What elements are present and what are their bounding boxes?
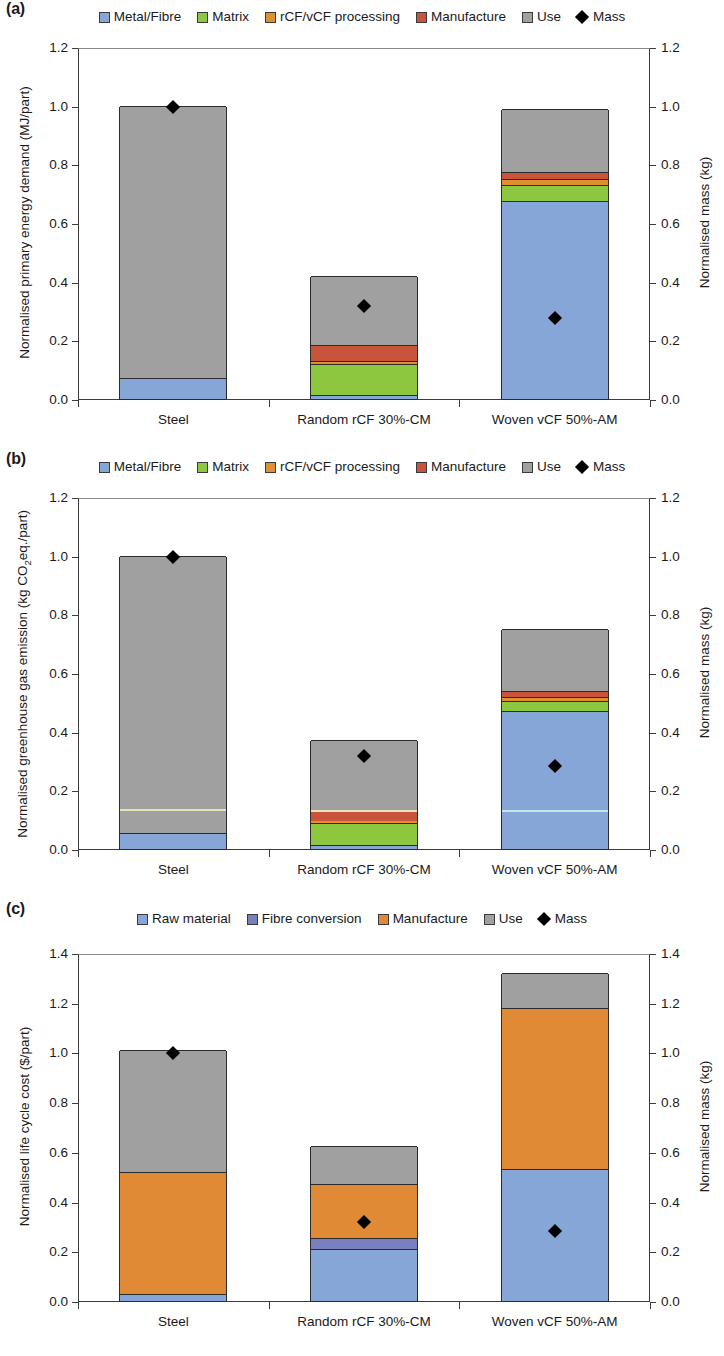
legend-item-matrix[interactable]: Matrix <box>197 460 249 474</box>
y-tick-label-right: 0.0 <box>661 1295 680 1309</box>
legend-item-fibre-conversion[interactable]: Fibre conversion <box>247 912 362 926</box>
legend-item-mass[interactable]: Mass <box>577 460 625 474</box>
y-tick-label-left: 0.6 <box>36 1146 68 1160</box>
y-axis-label-right: Normalised mass (kg) <box>697 953 712 1301</box>
y-tick-mark-right <box>650 1004 656 1005</box>
mass-diamond-icon <box>537 912 551 926</box>
y-tick-label-left: 0.6 <box>36 217 68 231</box>
bar-steel[interactable] <box>119 1051 227 1302</box>
legend-label: Fibre conversion <box>262 912 362 926</box>
bar-steel[interactable] <box>119 107 227 400</box>
legend-label: rCF/vCF processing <box>280 10 400 24</box>
y-tick-mark-right <box>650 1103 656 1104</box>
y-tick-mark-left <box>72 1053 78 1054</box>
bar-segment-metal-fibre <box>120 378 226 399</box>
y-tick-label-left: 0.0 <box>36 393 68 407</box>
legend-label: Matrix <box>212 10 249 24</box>
bar-segment-matrix <box>502 701 608 711</box>
y-tick-label-right: 0.2 <box>661 785 680 799</box>
bar-steel[interactable] <box>119 557 227 850</box>
y-tick-mark-left <box>72 733 78 734</box>
panel-b: (b) Metal/FibreMatrixrCF/vCF processingM… <box>0 450 724 900</box>
legend-label: Manufacture <box>431 10 506 24</box>
bar-segment-raw-material <box>120 1294 226 1301</box>
x-tick-mark <box>650 1302 651 1309</box>
legend-item-metal-fibre[interactable]: Metal/Fibre <box>99 10 182 24</box>
y-tick-mark-left <box>72 283 78 284</box>
legend-label: Mass <box>593 460 625 474</box>
y-tick-label-left: 1.4 <box>36 947 68 961</box>
legend-item-rcf-vcf-processing[interactable]: rCF/vCF processing <box>265 460 400 474</box>
bar-random-rcf-30-cm[interactable] <box>310 277 418 400</box>
legend-label: Manufacture <box>431 460 506 474</box>
bar-woven-vcf-50-am[interactable] <box>501 110 609 400</box>
legend-swatch-icon <box>197 12 208 23</box>
legend-label: rCF/vCF processing <box>280 460 400 474</box>
x-axis-label: Random rCF 30%-CM <box>297 1314 431 1329</box>
y-tick-label-right: 0.8 <box>661 609 680 623</box>
legend-item-mass[interactable]: Mass <box>539 912 587 926</box>
y-axis-label-right: Normalised mass (kg) <box>697 497 712 849</box>
y-tick-label-right: 0.6 <box>661 217 680 231</box>
y-tick-label-left: 0.6 <box>36 667 68 681</box>
y-tick-mark-left <box>72 165 78 166</box>
y-tick-label-left: 0.2 <box>36 785 68 799</box>
y-tick-mark-left <box>72 1153 78 1154</box>
y-tick-mark-right <box>650 341 656 342</box>
legend-item-rcf-vcf-processing[interactable]: rCF/vCF processing <box>265 10 400 24</box>
y-tick-label-left: 1.2 <box>36 41 68 55</box>
bar-segment-manufacture <box>502 1008 608 1170</box>
y-tick-label-left: 0.4 <box>36 276 68 290</box>
y-tick-label-right: 0.4 <box>661 726 680 740</box>
y-tick-mark-right <box>650 224 656 225</box>
bar-segment-manufacture <box>502 172 608 179</box>
bar-woven-vcf-50-am[interactable] <box>501 974 609 1302</box>
y-tick-label-left: 0.2 <box>36 1246 68 1260</box>
y-tick-mark-right <box>650 615 656 616</box>
legend-label: Mass <box>555 912 587 926</box>
legend-item-matrix[interactable]: Matrix <box>197 10 249 24</box>
y-tick-mark-left <box>72 791 78 792</box>
legend-panel-b: Metal/FibreMatrixrCF/vCF processingManuf… <box>0 458 724 476</box>
legend-swatch-icon <box>99 462 110 473</box>
y-tick-mark-left <box>72 224 78 225</box>
legend-label: Use <box>537 460 561 474</box>
legend-item-mass[interactable]: Mass <box>577 10 625 24</box>
y-tick-mark-left <box>72 341 78 342</box>
y-tick-mark-right <box>650 1203 656 1204</box>
y-tick-label-left: 1.0 <box>36 1047 68 1061</box>
y-axis-label-left: Normalised greenhouse gas emission (kg C… <box>15 498 33 850</box>
legend-item-use[interactable]: Use <box>522 460 561 474</box>
x-tick-mark <box>78 1302 79 1309</box>
x-tick-mark <box>650 850 651 857</box>
mass-diamond-icon <box>575 10 589 24</box>
y-tick-label-right: 0.0 <box>661 393 680 407</box>
panel-c: (c) Raw materialFibre conversionManufact… <box>0 900 724 1356</box>
y-tick-mark-left <box>72 48 78 49</box>
y-tick-mark-right <box>650 165 656 166</box>
bar-segment-matrix <box>311 364 417 395</box>
y-tick-label-right: 1.0 <box>661 100 680 114</box>
legend-item-raw-material[interactable]: Raw material <box>137 912 231 926</box>
y-tick-label-left: 0.8 <box>36 1096 68 1110</box>
bar-woven-vcf-50-am[interactable] <box>501 630 609 850</box>
y-tick-label-right: 0.4 <box>661 1196 680 1210</box>
legend-swatch-icon <box>197 462 208 473</box>
legend-item-metal-fibre[interactable]: Metal/Fibre <box>99 460 182 474</box>
bar-segment-metal-fibre <box>311 845 417 849</box>
legend-item-manufacture[interactable]: Manufacture <box>378 912 468 926</box>
legend-label: Raw material <box>152 912 231 926</box>
legend-item-use[interactable]: Use <box>522 10 561 24</box>
legend-item-use[interactable]: Use <box>484 912 523 926</box>
bar-inner-hairline <box>311 810 417 812</box>
legend-swatch-icon <box>484 914 495 925</box>
y-tick-label-right: 0.8 <box>661 1096 680 1110</box>
y-tick-mark-right <box>650 1053 656 1054</box>
legend-item-manufacture[interactable]: Manufacture <box>416 460 506 474</box>
bar-segment-manufacture <box>311 1184 417 1237</box>
legend-item-manufacture[interactable]: Manufacture <box>416 10 506 24</box>
legend-swatch-icon <box>378 914 389 925</box>
x-axis-label: Steel <box>158 1314 189 1329</box>
bar-segment-rcf-vcf-processing <box>502 179 608 185</box>
y-tick-label-right: 0.2 <box>661 1246 680 1260</box>
